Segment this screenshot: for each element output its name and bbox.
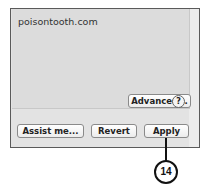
domain-text: poisontooth.com (18, 16, 98, 27)
network-settings-window: poisontooth.com Advanced... ? Assist me.… (10, 8, 200, 148)
help-button[interactable]: ? (172, 95, 185, 108)
settings-panel: poisontooth.com Advanced... ? (12, 9, 190, 109)
assist-me-button[interactable]: Assist me... (17, 124, 84, 138)
apply-button[interactable]: Apply (144, 124, 189, 138)
window-edge (189, 9, 199, 147)
revert-button[interactable]: Revert (91, 124, 137, 138)
callout-line (165, 138, 167, 161)
callout-number-badge: 14 (154, 160, 178, 184)
